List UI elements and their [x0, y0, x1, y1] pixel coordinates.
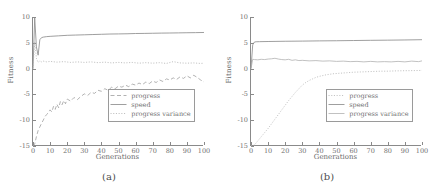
axes-a: 1050-5-10-150102030405060708090100progre…	[32, 17, 203, 146]
series-line-progress-variance	[251, 58, 422, 68]
y-tick-label: -5	[24, 91, 30, 98]
chart-legend-a: progressspeedprogress variance	[108, 89, 194, 122]
y-tick-label: 0	[244, 65, 248, 72]
y-tick-label: 5	[26, 40, 30, 47]
chart-panel-a: Fitness 1050-5-10-1501020304050607080901…	[0, 0, 218, 195]
legend-label: progress	[349, 93, 378, 100]
legend-swatch-icon	[111, 111, 128, 118]
legend-item: progress	[329, 92, 408, 101]
y-axis-label-b: Fitness	[225, 47, 233, 93]
y-tick-label: -15	[238, 143, 248, 150]
legend-item: progress variance	[329, 110, 408, 119]
legend-item: progress variance	[111, 110, 190, 119]
legend-swatch-icon	[329, 102, 346, 109]
legend-swatch-icon	[329, 93, 346, 100]
legend-label: progress variance	[349, 111, 408, 118]
series-line-speed	[251, 40, 422, 69]
y-tick-label: 5	[244, 40, 248, 47]
y-tick-label: -10	[238, 117, 248, 124]
legend-item: speed	[329, 101, 408, 110]
plot-area-a: Fitness 1050-5-10-1501020304050607080901…	[0, 0, 218, 168]
figure-two-panel-chart: Fitness 1050-5-10-1501020304050607080901…	[0, 0, 436, 195]
series-line-speed	[33, 18, 204, 69]
y-tick-label: 10	[240, 14, 248, 21]
legend-label: progress variance	[131, 111, 190, 118]
legend-label: progress	[131, 93, 160, 100]
y-tick-label: -5	[242, 91, 248, 98]
y-axis-label-a: Fitness	[7, 47, 15, 93]
subfigure-caption-a: (a)	[0, 171, 218, 182]
chart-panel-b: Fitness 1050-5-10-1501020304050607080901…	[218, 0, 436, 195]
series-canvas	[250, 16, 423, 147]
legend-swatch-icon	[111, 93, 128, 100]
x-axis-label-b: Generations	[250, 153, 421, 161]
plot-area-b: Fitness 1050-5-10-1501020304050607080901…	[218, 0, 436, 168]
legend-label: speed	[131, 102, 150, 109]
chart-legend-b: progressspeedprogress variance	[326, 89, 412, 122]
legend-swatch-icon	[111, 102, 128, 109]
y-tick-label: 0	[26, 65, 30, 72]
series-line-progress-variance	[33, 42, 204, 69]
axes-b: 1050-5-10-150102030405060708090100progre…	[250, 17, 421, 146]
y-tick-label: 10	[22, 14, 30, 21]
y-tick-label: -10	[20, 117, 30, 124]
legend-item: progress	[111, 92, 190, 101]
legend-swatch-icon	[329, 111, 346, 118]
x-axis-label-a: Generations	[32, 153, 203, 161]
legend-label: speed	[349, 102, 368, 109]
subfigure-caption-b: (b)	[218, 171, 436, 182]
y-tick-label: -15	[20, 143, 30, 150]
legend-item: speed	[111, 101, 190, 110]
series-canvas	[32, 16, 205, 147]
